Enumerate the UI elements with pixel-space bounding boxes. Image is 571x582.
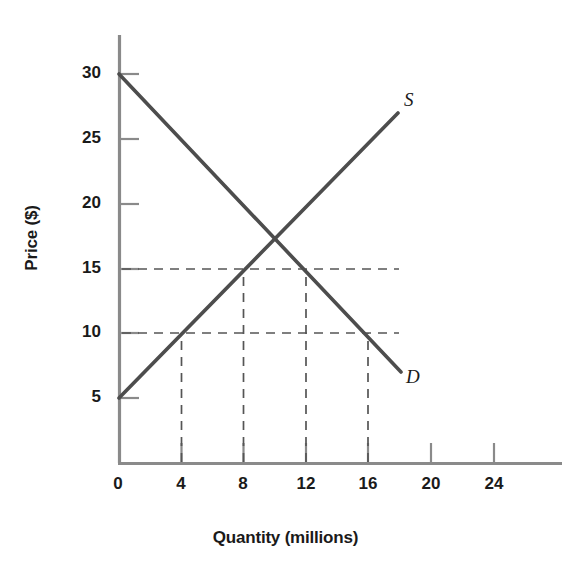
y-tick-label-20: 20: [61, 193, 101, 213]
y-tick-label-30: 30: [61, 63, 101, 83]
supply-curve: [119, 113, 398, 398]
x-tick-label-24: 24: [474, 474, 514, 494]
demand-curve-label: D: [406, 366, 420, 388]
supply-curve-label: S: [404, 89, 414, 111]
chart-plot-area: [0, 0, 571, 582]
guide-lines: [122, 269, 399, 462]
x-tick-label-0: 0: [98, 474, 138, 494]
x-tick-label-12: 12: [286, 474, 326, 494]
x-tick-label-4: 4: [161, 474, 201, 494]
x-tick-label-20: 20: [411, 474, 451, 494]
supply-demand-chart: 30 25 20 15 10 5 0 4 8 12 16 20 24 S D P…: [0, 0, 571, 582]
y-axis-ticks: [120, 74, 139, 398]
x-axis-ticks: [182, 443, 495, 462]
y-axis-title: Price ($): [22, 183, 42, 293]
x-tick-label-16: 16: [348, 474, 388, 494]
x-tick-label-8: 8: [223, 474, 263, 494]
axis-lines: [118, 35, 562, 464]
y-tick-label-5: 5: [61, 387, 101, 407]
y-tick-label-10: 10: [61, 322, 101, 342]
y-tick-label-25: 25: [61, 128, 101, 148]
demand-curve: [119, 74, 401, 372]
y-tick-label-15: 15: [61, 258, 101, 278]
x-axis-title: Quantity (millions): [0, 528, 571, 548]
